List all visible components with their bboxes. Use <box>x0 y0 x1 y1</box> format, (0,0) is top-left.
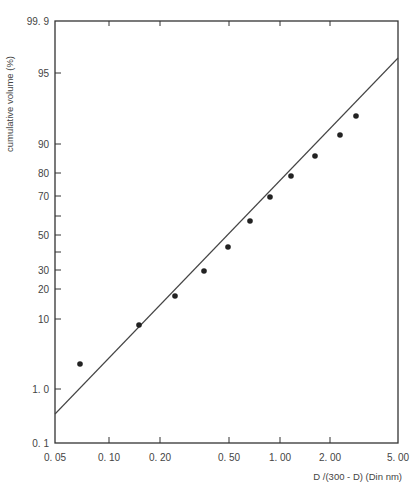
y-axis-title: cumulative volume (%) <box>4 56 15 152</box>
data-points <box>77 113 359 367</box>
x-tick-label: 0. 05 <box>44 452 67 463</box>
y-tick-label: 30 <box>38 265 50 276</box>
data-point <box>337 132 343 138</box>
fit-line-path <box>55 58 398 414</box>
x-tick-label: 5. 00 <box>387 452 410 463</box>
y-tick-label: 95 <box>38 68 50 79</box>
plot-frame <box>55 21 398 443</box>
data-point <box>247 218 253 224</box>
y-tick-label: 0. 1 <box>32 438 49 449</box>
x-axis-title: D /(300 - D) (Din nm) <box>313 471 402 482</box>
x-tick-label: 2. 00 <box>319 452 342 463</box>
data-point <box>267 194 273 200</box>
probability-plot: 99. 995908070503020101. 00. 1 0. 050. 10… <box>0 0 419 490</box>
data-point <box>136 322 142 328</box>
plot-border <box>55 21 398 443</box>
data-point <box>77 361 83 367</box>
data-point <box>225 244 231 250</box>
y-axis: 99. 995908070503020101. 00. 1 <box>27 16 61 449</box>
y-tick-label: 1. 0 <box>32 384 49 395</box>
data-point <box>172 293 178 299</box>
x-tick-label: 0. 50 <box>218 452 241 463</box>
data-point <box>201 268 207 274</box>
x-tick-label: 1. 00 <box>269 452 292 463</box>
y-tick-label: 10 <box>38 314 50 325</box>
y-tick-label: 90 <box>38 139 50 150</box>
data-point <box>353 113 359 119</box>
y-tick-label: 70 <box>38 191 50 202</box>
y-tick-label: 20 <box>38 284 50 295</box>
data-point <box>312 153 318 159</box>
y-tick-label: 50 <box>38 230 50 241</box>
y-tick-label: 80 <box>38 168 50 179</box>
data-point <box>288 173 294 179</box>
x-tick-label: 0. 10 <box>98 452 121 463</box>
fit-line <box>55 58 398 414</box>
x-tick-label: 0. 20 <box>149 452 172 463</box>
x-axis: 0. 050. 100. 200. 501. 002. 005. 00 <box>44 21 410 463</box>
y-tick-label: 99. 9 <box>27 16 50 27</box>
